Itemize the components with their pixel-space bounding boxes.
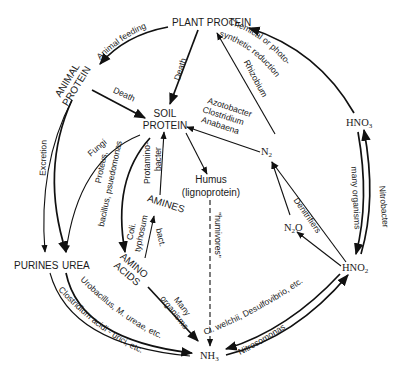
label-many-organisms-right: many organisms: [349, 166, 362, 229]
label-coli-bact: bact.: [154, 227, 168, 247]
edge-soil-humus: [186, 133, 207, 174]
node-soil-protein-1: SOIL: [154, 108, 177, 119]
svg-text:Death: Death: [172, 56, 189, 81]
svg-text:Nitrobacter: Nitrobacter: [377, 185, 391, 228]
node-humus-1: Humus: [195, 174, 227, 185]
node-soil-protein-2: PROTEIN: [143, 120, 187, 131]
label-many-organisms: Many organisms: [158, 287, 198, 331]
node-humus-2: (lignoprotein): [182, 187, 240, 198]
edge-excretion-purines: [44, 100, 72, 252]
svg-text:Death: Death: [112, 85, 137, 104]
svg-text:Excretion: Excretion: [37, 140, 48, 176]
node-amino-acids: AMINO ACIDS: [111, 251, 150, 289]
node-hno2: HNO2: [342, 262, 369, 275]
label-nitrosomonas: Nitrosomonas: [236, 322, 287, 357]
svg-text:Protamino-: Protamino-: [142, 142, 152, 184]
node-n2: N2: [261, 146, 273, 159]
svg-text:bacter: bacter: [153, 147, 163, 171]
label-coli: Coli. typhosum: [122, 212, 149, 253]
svg-text:"humivores": "humivores": [213, 212, 223, 258]
label-animal-feeding: Animal feeding: [94, 20, 147, 61]
svg-text:bact.: bact.: [154, 227, 168, 247]
node-amines: AMINES: [146, 193, 186, 215]
label-urobacillus: Urobacillus, M. ureae, etc.: [79, 274, 164, 340]
node-purines: PURINES: [14, 260, 59, 271]
nitrogen-cycle-diagram: PLANT PROTEIN ANIMAL PROTEIN SOIL PROTEI…: [0, 0, 397, 375]
svg-text:AMINES: AMINES: [146, 193, 186, 215]
label-nitrobacter: Nitrobacter: [377, 185, 391, 228]
label-humivores: "humivores": [213, 212, 223, 258]
label-protaminobacter: Protamino- bacter: [142, 142, 163, 184]
label-excretion: Excretion: [37, 140, 48, 176]
node-n2o: N2O: [284, 222, 303, 235]
node-hno3: HNO3: [346, 117, 373, 130]
node-urea: UREA: [62, 260, 90, 271]
label-azotobacter: Azotobacter Clostridium Anabaena: [198, 95, 253, 138]
edge-nitrobacter: [361, 130, 370, 254]
node-animal-protein: ANIMAL PROTEIN: [51, 58, 93, 107]
edge-hno2-n2o: [297, 232, 341, 266]
edge-n2o-n2: [272, 162, 290, 215]
label-death-animal: Death: [112, 85, 137, 104]
edge-excretion-urea: [54, 100, 72, 252]
node-nh3: NH3: [200, 350, 219, 363]
label-death-plant: Death: [172, 56, 189, 81]
svg-text:many organisms: many organisms: [349, 166, 362, 229]
